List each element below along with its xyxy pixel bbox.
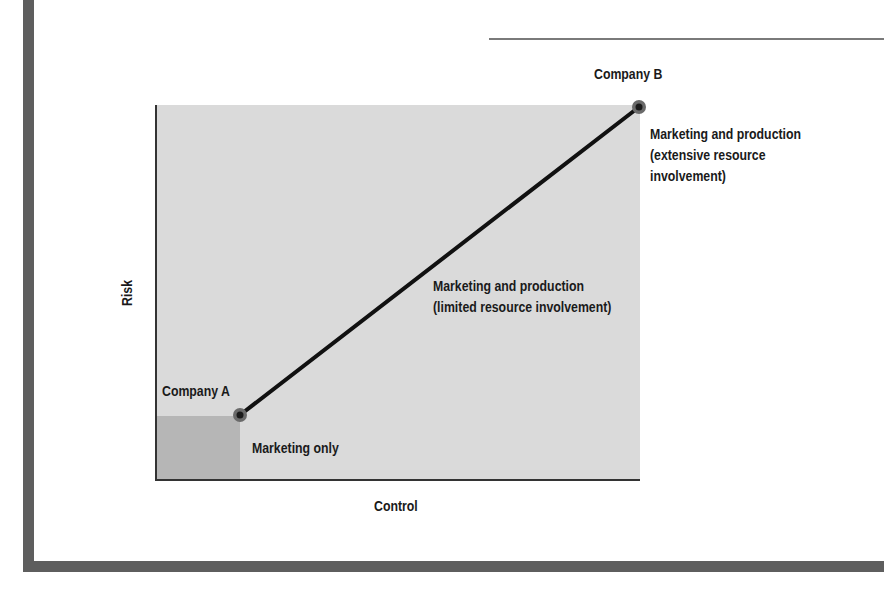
marketing-only-region: [157, 416, 240, 479]
company-b-label: Company B: [594, 64, 662, 84]
marketing-only-label: Marketing only: [252, 438, 339, 458]
limited-involvement-label-line2: (limited resource involvement): [433, 297, 611, 317]
y-axis-label: Risk: [118, 280, 135, 306]
page-frame-left-bar: [23, 0, 34, 572]
page-frame-bottom-bar: [23, 561, 884, 572]
extensive-involvement-label-line2: (extensive resource: [650, 145, 766, 165]
limited-involvement-label-line1: Marketing and production: [433, 276, 584, 296]
company-a-label: Company A: [162, 381, 230, 401]
x-axis-label: Control: [374, 497, 418, 514]
extensive-involvement-label-line1: Marketing and production: [650, 124, 801, 144]
extensive-involvement-label-line3: involvement): [650, 166, 726, 186]
top-divider-rule: [489, 38, 884, 40]
